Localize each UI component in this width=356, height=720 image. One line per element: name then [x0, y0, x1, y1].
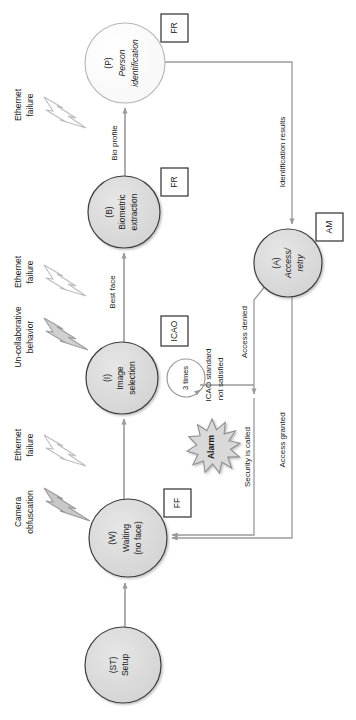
annotation-box-fr-biometric[interactable]: FR: [161, 168, 188, 196]
annotation-box-ff-waiting[interactable]: FF: [164, 489, 191, 517]
fault-uncollaborative-behavior-line2: behavior: [25, 321, 35, 354]
state-machine-diagram: 3 times (ST) Setup (W) Waiting (no face)…: [0, 0, 356, 720]
annotation-box-icao-label: ICAO: [169, 320, 179, 341]
node-setup-label: Setup: [120, 654, 130, 676]
annotation-box-fr-biometric-label: FR: [169, 176, 179, 187]
lightning-bolt-icon: [44, 265, 86, 296]
fault-ethernet-failure-low-line2: failure: [25, 433, 35, 456]
node-biometric-extraction-label2: extraction: [129, 193, 139, 230]
node-biometric-extraction-label: Biometric: [117, 194, 127, 230]
edge-label-access-denied: Access denied: [240, 306, 249, 358]
node-biometric-extraction-tag: (B): [104, 206, 114, 218]
fault-annotations-layer: Ethernet failure Ethernet failure Un-col…: [13, 88, 90, 533]
fault-ethernet-failure-low: Ethernet failure: [13, 428, 86, 466]
node-waiting-label: Waiting: [121, 524, 131, 552]
edge-label-bio-profile: Bio profile: [110, 125, 119, 161]
lightning-bolt-icon: [44, 488, 90, 521]
edge-label-not-satisfied: not satisfied: [216, 358, 225, 401]
fault-camera-obfuscation-line2: obfuscation: [25, 490, 35, 534]
node-access-retry-label: Access/: [283, 246, 293, 278]
node-person-identification-label2: identification: [130, 39, 140, 87]
lightning-bolt-icon: [44, 97, 86, 128]
diagram-canvas: 3 times (ST) Setup (W) Waiting (no face)…: [0, 0, 356, 720]
edge-label-identification-results: Identification results: [278, 117, 287, 188]
node-image-selection-tag: (I): [102, 374, 112, 382]
edge-person-to-access: [165, 62, 292, 224]
node-person-identification[interactable]: (P) Person identification: [85, 23, 165, 103]
alarm-group: Alarm: [187, 419, 240, 473]
edge-labels-layer: Bio profile Best face Identification res…: [108, 117, 287, 487]
node-person-identification-tag: (P): [103, 57, 113, 69]
fault-ethernet-failure-mid-line1: Ethernet: [13, 255, 23, 288]
edge-access-denied: [254, 285, 266, 394]
node-waiting-tag: (W): [107, 531, 117, 545]
fault-uncollaborative-behavior: Un-collaborative behavior: [13, 306, 88, 368]
lightning-bolt-icon: [44, 435, 86, 466]
fault-camera-obfuscation-line1: Camera: [13, 497, 23, 528]
annotation-box-icao[interactable]: ICAO: [161, 316, 188, 346]
fault-ethernet-failure-top-line1: Ethernet: [13, 88, 23, 121]
node-image-selection-label: Image: [115, 366, 125, 390]
lightning-bolt-icon: [44, 318, 88, 350]
fault-uncollaborative-behavior-line1: Un-collaborative: [13, 306, 23, 368]
retry-loop-label: 3 times: [181, 366, 190, 390]
annotation-box-fr-person[interactable]: FR: [161, 14, 188, 42]
node-person-identification-label: Person: [117, 49, 127, 76]
fault-ethernet-failure-top: Ethernet failure: [13, 88, 86, 128]
fault-camera-obfuscation: Camera obfuscation: [13, 488, 90, 534]
edge-label-best-face: Best face: [108, 275, 117, 309]
node-setup[interactable]: (ST) Setup: [85, 627, 161, 703]
fault-ethernet-failure-top-line2: failure: [25, 93, 35, 116]
fault-ethernet-failure-low-line1: Ethernet: [13, 428, 23, 461]
retry-loop-group: 3 times: [167, 359, 205, 397]
edge-label-security-is-called: Security is called: [243, 427, 252, 487]
node-waiting-label2: (no face): [133, 521, 143, 555]
edge-label-access-granted: Access granted: [278, 412, 287, 467]
node-access-retry-tag: (A): [271, 257, 281, 269]
node-setup-tag: (ST): [108, 657, 118, 674]
annotation-box-am-access[interactable]: AM: [316, 213, 343, 241]
node-access-retry[interactable]: (A) Access/ retry: [254, 229, 322, 297]
node-waiting[interactable]: (W) Waiting (no face): [89, 499, 167, 577]
node-image-selection-label2: selection: [127, 361, 137, 395]
alarm-label: Alarm: [206, 435, 216, 460]
node-image-selection[interactable]: (I) Image selection: [86, 342, 158, 414]
fault-ethernet-failure-mid-line2: failure: [25, 260, 35, 283]
node-access-retry-label2: retry: [295, 254, 305, 272]
annotation-box-ff-waiting-label: FF: [172, 498, 182, 508]
fault-ethernet-failure-mid: Ethernet failure: [13, 255, 86, 296]
node-biometric-extraction[interactable]: (B) Biometric extraction: [88, 176, 160, 248]
annotation-box-am-access-label: AM: [324, 221, 334, 234]
edge-label-icao-standard: ICAO standard: [204, 349, 213, 402]
annotation-box-fr-person-label: FR: [169, 22, 179, 33]
